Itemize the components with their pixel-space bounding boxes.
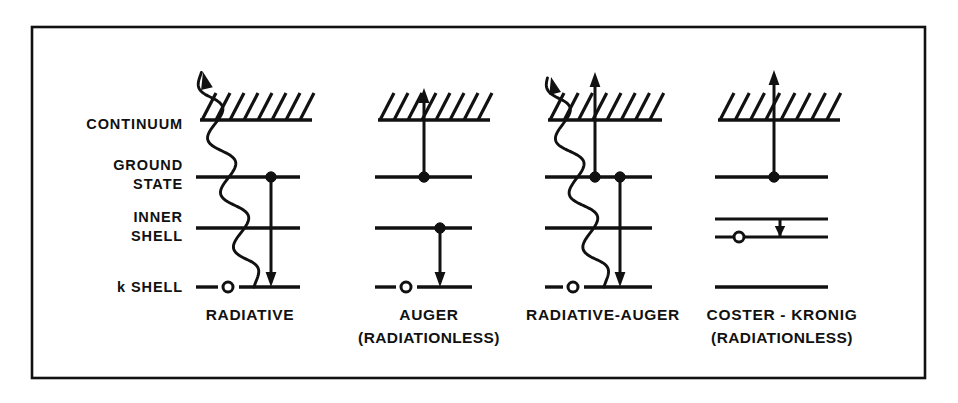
level-label-text: GROUND — [113, 157, 183, 173]
level-label-text: k SHELL — [117, 279, 183, 295]
process-subcaption: (RADIATIONLESS) — [358, 329, 500, 346]
energy-level-diagram: CONTINUUMGROUNDSTATEINNERSHELLk SHELL RA… — [0, 0, 958, 403]
level-label-k-shell: k SHELL — [117, 279, 183, 295]
vacancy-circle — [401, 282, 411, 292]
level-label-text: INNER — [133, 209, 183, 225]
level-label-text: STATE — [133, 176, 183, 192]
caption-radiative: RADIATIVE — [206, 306, 295, 323]
process-caption: COSTER - KRONIG — [707, 306, 858, 323]
electron-dot — [266, 172, 276, 182]
level-label-text: SHELL — [131, 228, 183, 244]
process-caption: RADIATIVE — [206, 306, 295, 323]
process-caption: AUGER — [399, 306, 458, 323]
caption-radiative-auger: RADIATIVE-AUGER — [526, 306, 680, 323]
process-caption: RADIATIVE-AUGER — [526, 306, 680, 323]
vacancy-circle — [734, 232, 744, 242]
electron-dot — [615, 172, 625, 182]
electron-dot — [435, 223, 445, 233]
level-label-continuum: CONTINUUM — [86, 116, 183, 132]
electron-dot — [419, 172, 429, 182]
electron-dot — [769, 172, 779, 182]
electron-dot — [590, 172, 600, 182]
vacancy-circle — [223, 282, 233, 292]
process-subcaption: (RADIATIONLESS) — [711, 329, 853, 346]
figure-root: CONTINUUMGROUNDSTATEINNERSHELLk SHELL RA… — [0, 0, 958, 403]
vacancy-circle — [568, 282, 578, 292]
level-label-text: CONTINUUM — [86, 116, 183, 132]
